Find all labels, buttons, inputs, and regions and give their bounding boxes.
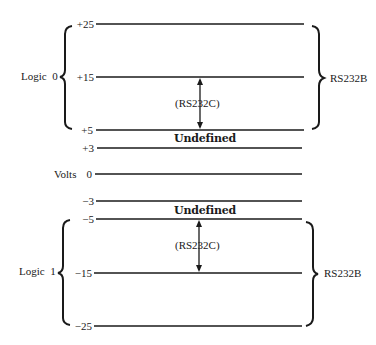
arrowhead-up-icon	[197, 78, 203, 85]
arrowhead-down-icon	[197, 122, 203, 129]
arrowhead-up-icon	[196, 220, 202, 227]
tick-label-minus5: −5	[66, 214, 94, 225]
undefined-lower-label: Undefined	[174, 205, 236, 216]
rs232b-lower-brace	[306, 222, 318, 326]
volts-axis-label: Volts	[54, 169, 76, 180]
undefined-upper-label: Undefined	[174, 133, 236, 144]
voltage-level-diagram: +25 +15 +5 +3 0 −3 −5 −15 −25 Logic 0 Lo…	[0, 0, 376, 345]
tick-label-plus5: +5	[65, 125, 93, 136]
tick-label-plus25: +25	[66, 19, 94, 30]
tick-label-plus3: +3	[66, 143, 94, 154]
rs232c-lower-label: (RS232C)	[175, 240, 220, 251]
tick-label-minus3: −3	[66, 196, 94, 207]
tick-label-plus15: +15	[66, 72, 94, 83]
logic1-label: Logic 1	[19, 266, 56, 277]
tick-label-minus25: −25	[64, 321, 92, 332]
logic0-label: Logic 0	[21, 71, 58, 82]
rs232b-lower-label: RS232B	[324, 268, 361, 279]
tick-label-minus15: −15	[64, 268, 92, 279]
rs232b-upper-label: RS232B	[330, 73, 367, 84]
arrowhead-down-icon	[196, 265, 202, 272]
rs232b-upper-brace	[312, 26, 324, 129]
rs232c-upper-label: (RS232C)	[175, 98, 220, 109]
